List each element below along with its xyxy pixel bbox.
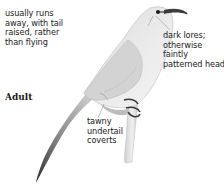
undertail-annotation: tawny undertail coverts: [87, 117, 123, 146]
eye-icon: [156, 10, 160, 14]
age-label: Adult: [5, 92, 32, 102]
behavior-annotation: usually runs away, with tail raised, rat…: [5, 9, 63, 47]
head-annotation: dark lores; otherwise faintly patterned …: [163, 31, 224, 69]
head-line-4: patterned head: [163, 60, 224, 70]
behavior-line-4: than flying: [5, 38, 63, 48]
undertail-line-3: coverts: [87, 136, 123, 146]
